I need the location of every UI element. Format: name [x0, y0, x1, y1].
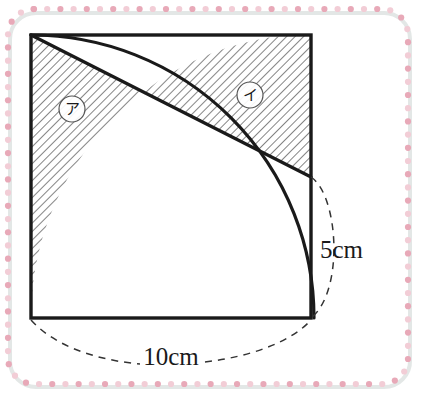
frame-dot: [405, 329, 411, 335]
frame-dot: [405, 263, 411, 269]
frame-dot: [401, 368, 407, 374]
frame-dot: [348, 6, 354, 12]
frame-dot: [12, 373, 18, 379]
frame-dot: [49, 381, 55, 387]
frame-dot: [5, 110, 11, 116]
frame-dot: [260, 381, 266, 387]
region-label-b: イ: [237, 82, 263, 108]
frame-dot: [5, 137, 11, 143]
frame-dot: [405, 145, 411, 151]
frame-dot: [366, 381, 372, 387]
frame-dot: [57, 6, 63, 12]
frame-dot: [353, 381, 359, 387]
frame-dot: [405, 131, 411, 137]
geometry-figure: ア イ 5cm 10cm: [0, 0, 425, 407]
frame-dot: [308, 6, 314, 12]
frame-dot: [321, 6, 327, 12]
frame-dot: [234, 381, 240, 387]
frame-dot: [405, 237, 411, 243]
frame-dot: [269, 6, 275, 12]
frame-dot: [405, 250, 411, 256]
dimension-label-width: 10cm: [143, 343, 199, 370]
frame-dot: [5, 348, 11, 354]
frame-dot: [5, 229, 11, 235]
frame-dot: [295, 6, 301, 12]
frame-dot: [62, 381, 68, 387]
frame-dot: [405, 211, 411, 217]
frame-dot: [142, 381, 148, 387]
frame-dot: [405, 184, 411, 190]
frame-dot: [242, 6, 248, 12]
frame-dot: [36, 381, 42, 387]
region-b-label: イ: [243, 86, 258, 104]
frame-dot: [387, 7, 393, 13]
frame-dot: [5, 216, 11, 222]
frame-dot: [71, 6, 77, 12]
frame-dot: [398, 14, 404, 20]
frame-dot: [313, 381, 319, 387]
frame-dot: [84, 6, 90, 12]
frame-dot: [379, 381, 385, 387]
frame-dot: [115, 381, 121, 387]
frame-dot: [5, 44, 11, 50]
frame-dot: [128, 381, 134, 387]
frame-dot: [405, 290, 411, 296]
frame-dot: [221, 381, 227, 387]
frame-dot: [405, 79, 411, 85]
frame-dot: [5, 308, 11, 314]
frame-dot: [5, 163, 11, 169]
frame-dot: [5, 269, 11, 275]
frame-dot: [405, 52, 411, 58]
frame-dot: [247, 381, 253, 387]
frame-dot: [168, 381, 174, 387]
frame-dot: [5, 150, 11, 156]
frame-dot: [392, 377, 398, 383]
dimension-label-height: 5cm: [320, 236, 364, 263]
frame-dot: [5, 295, 11, 301]
frame-dot: [89, 381, 95, 387]
region-a-label: ア: [65, 100, 80, 118]
dimension-arc-width-right: [205, 320, 311, 362]
frame-dot: [30, 6, 36, 12]
frame-dot: [123, 6, 129, 12]
region-label-a: ア: [59, 96, 85, 122]
frame-dot: [340, 381, 346, 387]
frame-dot: [405, 105, 411, 111]
frame-dot: [137, 6, 143, 12]
frame-dot: [97, 6, 103, 12]
frame-dot: [203, 6, 209, 12]
frame-dot: [208, 381, 214, 387]
frame-dot: [176, 6, 182, 12]
frame-dot: [5, 335, 11, 341]
frame-dot: [405, 158, 411, 164]
frame-dot: [5, 282, 11, 288]
frame-dot: [405, 197, 411, 203]
frame-dot: [5, 71, 11, 77]
frame-dot: [255, 6, 261, 12]
frame-dot: [374, 6, 380, 12]
frame-dot: [361, 6, 367, 12]
frame-dot: [405, 65, 411, 71]
frame-dot: [5, 190, 11, 196]
frame-dot: [405, 316, 411, 322]
frame-dot: [23, 380, 29, 386]
frame-dot: [5, 203, 11, 209]
frame-dot: [5, 58, 11, 64]
frame-dot: [163, 6, 169, 12]
frame-dot: [5, 31, 11, 37]
frame-dot: [335, 6, 341, 12]
frame-dot: [44, 6, 50, 12]
frame-dot: [18, 9, 24, 15]
frame-dot: [189, 6, 195, 12]
frame-dot: [404, 26, 410, 32]
frame-dot: [76, 381, 82, 387]
frame-dot: [194, 381, 200, 387]
frame-dot: [405, 356, 411, 362]
frame-dot: [282, 6, 288, 12]
frame-dot: [102, 381, 108, 387]
frame-dot: [405, 343, 411, 349]
frame-dot: [229, 6, 235, 12]
frame-dot: [5, 322, 11, 328]
frame-dot: [300, 381, 306, 387]
frame-dot: [5, 176, 11, 182]
